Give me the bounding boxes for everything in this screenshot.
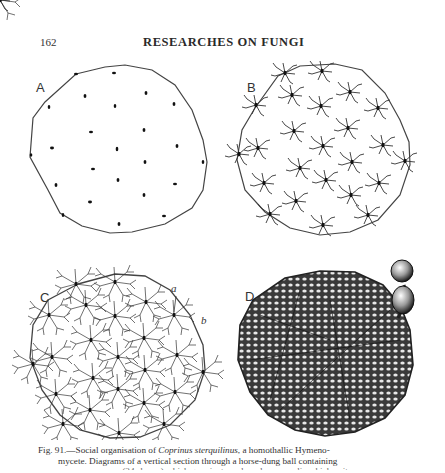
caption-line1-pre: —Social organisation of xyxy=(66,445,158,455)
figure-91: A B C D a b a xyxy=(0,0,445,440)
caption-line-3: numerous spores (24 shown) which germina… xyxy=(38,466,410,470)
caption-fig-prefix: Fig. 91. xyxy=(38,445,66,455)
figure-caption: Fig. 91.—Social organisation of Coprinus… xyxy=(38,445,410,470)
caption-line-2: mycete. Diagrams of a vertical section t… xyxy=(38,456,410,467)
caption-line-1: Fig. 91.—Social organisation of Coprinus… xyxy=(38,445,410,456)
caption-species: Coprinus sterquilinus xyxy=(158,445,238,455)
panel-b-drawing xyxy=(0,0,417,236)
panel-d-drawing xyxy=(238,260,414,436)
panel-a-drawing xyxy=(30,65,207,233)
caption-line1-post: , a homothallic Hymeno- xyxy=(238,445,330,455)
